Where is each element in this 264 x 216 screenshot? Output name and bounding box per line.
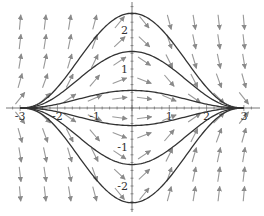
field-arrow — [19, 167, 21, 182]
field-arrow — [113, 133, 127, 138]
field-arrow — [138, 151, 151, 159]
field-arrow — [19, 15, 20, 30]
field-arrow — [43, 128, 48, 142]
field-arrow — [192, 148, 196, 162]
field-arrow — [69, 186, 71, 201]
field-arrow — [44, 147, 47, 162]
field-arrow — [68, 54, 72, 68]
y-tick-label: -2 — [117, 180, 128, 193]
field-arrow — [243, 147, 245, 162]
field-arrow — [44, 54, 47, 69]
field-arrow — [18, 73, 22, 87]
y-tick-label: 2 — [121, 24, 128, 37]
x-tick-label: 3 — [240, 110, 247, 123]
field-arrow — [68, 34, 71, 49]
field-arrow — [138, 57, 151, 65]
field-arrow — [44, 15, 46, 30]
field-arrow — [216, 128, 221, 142]
field-arrow — [167, 15, 171, 29]
field-arrow — [242, 128, 246, 142]
field-arrow — [90, 130, 100, 141]
field-arrow — [242, 73, 246, 87]
field-arrow — [193, 186, 195, 201]
field-arrow — [216, 74, 221, 88]
field-arrow — [15, 92, 24, 104]
field-arrow — [137, 117, 152, 119]
slope-field-plot: -3-2-1123-2-112 — [0, 0, 264, 216]
field-arrow — [44, 167, 46, 182]
field-arrow — [193, 167, 196, 182]
field-arrow — [19, 186, 20, 201]
field-arrow — [218, 186, 220, 201]
field-arrow — [192, 54, 196, 68]
tick-labels: -3-2-1123-2-112 — [15, 24, 248, 193]
field-arrow — [217, 54, 220, 69]
y-tick-label: -1 — [117, 141, 128, 154]
field-arrow — [112, 97, 127, 99]
field-arrow — [164, 130, 174, 141]
field-arrow — [217, 147, 220, 162]
field-arrow — [68, 148, 72, 162]
field-arrow — [18, 128, 22, 142]
field-arrow — [167, 187, 171, 201]
y-tick-label: 1 — [121, 63, 128, 76]
field-arrow — [218, 15, 220, 30]
field-arrow — [44, 34, 46, 49]
field-arrow — [139, 37, 150, 47]
field-arrow — [19, 34, 21, 49]
field-arrow — [93, 15, 97, 29]
field-arrow — [193, 34, 196, 49]
x-tick-label: -3 — [15, 110, 26, 123]
field-arrow — [68, 167, 71, 182]
field-arrow — [114, 37, 125, 47]
field-arrow — [243, 54, 245, 69]
field-arrow — [193, 15, 195, 30]
field-arrow — [19, 147, 21, 162]
field-arrow — [137, 78, 151, 83]
field-arrow — [239, 92, 248, 104]
field-arrow — [243, 186, 244, 201]
field-arrow — [112, 117, 127, 119]
field-arrow — [137, 133, 151, 138]
field-arrow — [243, 167, 245, 182]
field-arrow — [19, 54, 21, 69]
field-arrow — [114, 169, 125, 179]
field-arrow — [43, 74, 48, 88]
field-arrow — [218, 34, 220, 49]
field-arrow — [243, 34, 245, 49]
field-arrow — [243, 15, 244, 30]
field-arrow — [164, 75, 174, 86]
field-arrow — [139, 169, 150, 179]
field-arrow — [218, 167, 220, 182]
field-arrow — [113, 78, 127, 83]
field-arrow — [93, 187, 97, 201]
field-arrow — [137, 97, 152, 99]
field-arrow — [69, 15, 71, 30]
field-arrow — [44, 186, 46, 201]
field-arrow — [90, 75, 100, 86]
